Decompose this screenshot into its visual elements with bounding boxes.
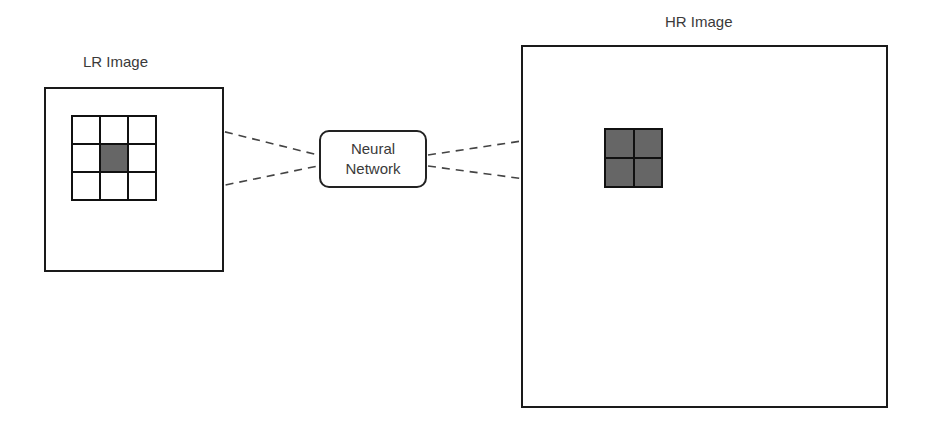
- hr-pixel-block: [604, 128, 663, 188]
- neural-network-label-line1: Neural: [351, 139, 395, 159]
- hr-pixel-cell: [635, 130, 662, 157]
- hr-image-frame: [521, 45, 888, 408]
- hr-pixel-cell: [606, 130, 633, 157]
- neural-network-label-line2: Network: [345, 159, 400, 179]
- lr-pixel-cell: [129, 173, 155, 199]
- lr-pixel-grid: [71, 115, 157, 201]
- lr-center-pixel-highlighted: [101, 145, 127, 171]
- lr-pixel-cell: [101, 173, 127, 199]
- lr-pixel-cell: [73, 173, 99, 199]
- hr-image-label: HR Image: [665, 13, 733, 30]
- neural-network-node: Neural Network: [319, 130, 427, 188]
- lr-pixel-cell: [73, 117, 99, 143]
- hr-pixel-cell: [635, 159, 662, 186]
- lr-image-label: LR Image: [83, 53, 148, 70]
- lr-pixel-cell: [129, 145, 155, 171]
- hr-pixel-cell: [606, 159, 633, 186]
- lr-pixel-cell: [101, 117, 127, 143]
- lr-pixel-cell: [73, 145, 99, 171]
- lr-pixel-cell: [129, 117, 155, 143]
